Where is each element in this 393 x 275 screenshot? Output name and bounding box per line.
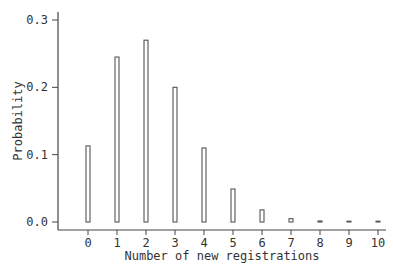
bar-1: [115, 57, 119, 222]
plot-area: [86, 40, 380, 222]
x-tick-label: 8: [316, 236, 323, 250]
y-axis-title: Probability: [11, 81, 25, 160]
probability-bar-chart: 0.00.10.20.3 012345678910 Number of new …: [0, 0, 393, 275]
y-tick-label: 0.0: [26, 215, 48, 229]
x-tick-label: 5: [229, 236, 236, 250]
x-tick-label: 2: [142, 236, 149, 250]
x-tick-label: 1: [113, 236, 120, 250]
y-tick-label: 0.3: [26, 13, 48, 27]
bar-6: [260, 210, 264, 222]
y-axis-ticks: 0.00.10.20.3: [26, 13, 58, 229]
bar-4: [202, 148, 206, 222]
bar-0: [86, 146, 90, 222]
bar-3: [173, 87, 177, 222]
bar-7: [289, 219, 293, 222]
bar-2: [144, 40, 148, 222]
x-axis-title: Number of new registrations: [124, 249, 319, 263]
bar-5: [231, 189, 235, 222]
x-tick-label: 10: [371, 236, 385, 250]
bar-10: [376, 221, 380, 222]
x-tick-label: 4: [200, 236, 207, 250]
x-tick-label: 9: [345, 236, 352, 250]
x-tick-label: 6: [258, 236, 265, 250]
x-tick-label: 7: [287, 236, 294, 250]
y-tick-label: 0.1: [26, 148, 48, 162]
x-axis-ticks: 012345678910: [84, 230, 385, 250]
x-tick-label: 3: [171, 236, 178, 250]
x-tick-label: 0: [84, 236, 91, 250]
y-tick-label: 0.2: [26, 80, 48, 94]
bar-9: [347, 221, 351, 222]
bar-8: [318, 221, 322, 222]
